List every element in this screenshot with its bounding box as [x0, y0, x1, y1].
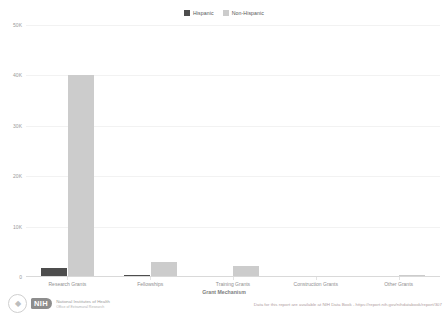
y-axis-tick-label: 40K — [13, 72, 22, 78]
x-axis-tick-label: Research Grants — [48, 281, 86, 287]
legend-item-non-hispanic[interactable]: Non-Hispanic — [223, 10, 264, 16]
legend-label-non-hispanic: Non-Hispanic — [232, 10, 264, 16]
nih-office-name: Office of Extramural Research — [56, 305, 110, 309]
nih-agency-name: National Institutes of Health — [56, 299, 110, 304]
legend-swatch-non-hispanic — [223, 10, 229, 16]
legend-label-hispanic: Hispanic — [193, 10, 214, 16]
y-axis-tick-label: 20K — [13, 173, 22, 179]
plot-area: 010K20K30K40K50K Research GrantsFellowsh… — [26, 25, 440, 277]
bar-group: Training Grants — [192, 25, 275, 277]
nih-brand-text: National Institutes of Health Office of … — [56, 299, 110, 309]
nih-logo-pill: NIH — [31, 298, 52, 309]
chart-legend: Hispanic Non-Hispanic — [0, 10, 448, 16]
x-axis-tick-label: Construction Grants — [294, 281, 338, 287]
x-axis-tickmark — [233, 277, 234, 280]
legend-swatch-hispanic — [184, 10, 190, 16]
y-axis-tick-label: 10K — [13, 224, 22, 230]
x-axis-tickmark — [316, 277, 317, 280]
x-axis-tick-label: Training Grants — [216, 281, 250, 287]
bar-group: Research Grants — [26, 25, 109, 277]
bar-groups: Research GrantsFellowshipsTraining Grant… — [26, 25, 440, 277]
bar-group: Other Grants — [357, 25, 440, 277]
bar-non-hispanic[interactable] — [151, 262, 177, 277]
y-axis-tick-label: 0 — [19, 274, 22, 280]
x-axis-tickmark — [399, 277, 400, 280]
y-axis-tick-label: 50K — [13, 22, 22, 28]
source-note: Data for this report are available at NI… — [254, 302, 442, 307]
x-axis-tickmark — [150, 277, 151, 280]
x-axis-tick-label: Other Grants — [384, 281, 413, 287]
y-axis-tick-label: 30K — [13, 123, 22, 129]
x-axis-tick-label: Fellowships — [137, 281, 163, 287]
bar-group: Construction Grants — [274, 25, 357, 277]
chart-container: Hispanic Non-Hispanic 010K20K30K40K50K R… — [0, 0, 448, 321]
nih-branding: ◆ NIH National Institutes of Health Offi… — [8, 294, 110, 313]
bar-non-hispanic[interactable] — [68, 75, 94, 277]
nih-seal-icon: ◆ — [8, 294, 27, 313]
x-axis-tickmark — [67, 277, 68, 280]
legend-item-hispanic[interactable]: Hispanic — [184, 10, 214, 16]
x-axis-line — [26, 276, 440, 277]
bar-group: Fellowships — [109, 25, 192, 277]
